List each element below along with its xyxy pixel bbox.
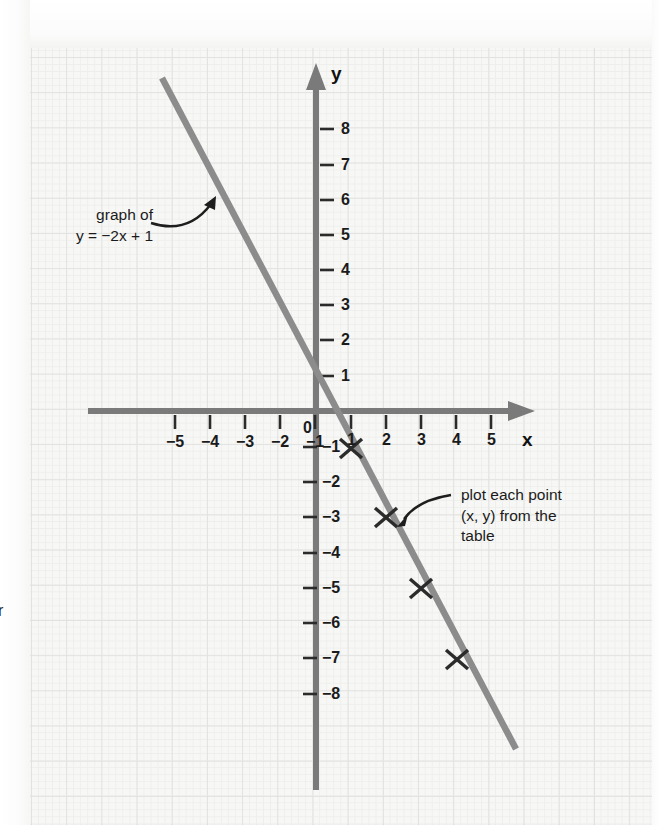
y-tick-label--5: −5: [322, 580, 340, 596]
y-tick-label-5: 5: [341, 227, 350, 243]
x-tick-label--3: −3: [236, 434, 254, 450]
graph-of-annotation: graph of y = −2x + 1: [48, 205, 153, 246]
graph-of-annotation-line1: graph of: [48, 205, 153, 226]
y-tick-label--2: −2: [322, 474, 340, 490]
plot-each-point-annotation-line3: table: [461, 526, 562, 547]
x-tick-label--2: −2: [271, 434, 289, 450]
y-tick-label-1: 1: [341, 368, 350, 384]
x-tick-label-1: 1: [347, 432, 356, 448]
y-tick-label--7: −7: [322, 650, 340, 666]
y-tick-label--1: −1: [322, 439, 340, 455]
plot-each-point-callout-arrow: [397, 495, 451, 527]
graph-of-annotation-line2: y = −2x + 1: [48, 226, 153, 247]
y-tick-label-8: 8: [341, 121, 350, 137]
x-axis-label: x: [522, 429, 533, 451]
x-tick-label--4: −4: [201, 434, 219, 450]
y-tick-label-2: 2: [341, 332, 350, 348]
y-tick-label-4: 4: [341, 262, 350, 278]
x-tick-label-5: 5: [487, 432, 496, 448]
figure-page: −5 −4 −3 −2 −1 0 1 2 3 4 5 x 8 7 6 5 4 3…: [0, 0, 660, 825]
y-tick-label--8: −8: [322, 686, 340, 702]
y-tick-label--4: −4: [322, 545, 340, 561]
plot-each-point-annotation-line1: plot each point: [461, 485, 562, 506]
x-tick-label--5: −5: [166, 434, 184, 450]
plotted-point-markers: [340, 439, 468, 669]
graph-of-callout-arrow: [151, 196, 216, 226]
cropped-edge-text: r: [0, 602, 3, 620]
marker-point-4-neg7: [446, 650, 468, 669]
plot-each-point-annotation-line2: (x, y) from the: [461, 506, 562, 527]
plot-each-point-annotation: plot each point (x, y) from the table: [461, 485, 562, 547]
x-tick-label-4: 4: [452, 432, 461, 448]
y-tick-label--6: −6: [322, 615, 340, 631]
y-axis-arrowhead: [306, 63, 326, 90]
x-tick-label-3: 3: [417, 432, 426, 448]
y-tick-label-3: 3: [341, 297, 350, 313]
y-tick-label-7: 7: [341, 157, 350, 173]
y-tick-label--3: −3: [322, 509, 340, 525]
y-tick-label-6: 6: [341, 192, 350, 208]
x-axis-arrowhead: [508, 401, 535, 421]
y-axis-label: y: [331, 63, 342, 85]
origin-label: 0: [303, 420, 312, 436]
x-tick-label-2: 2: [382, 432, 391, 448]
x-axis-ticks: [175, 415, 491, 429]
